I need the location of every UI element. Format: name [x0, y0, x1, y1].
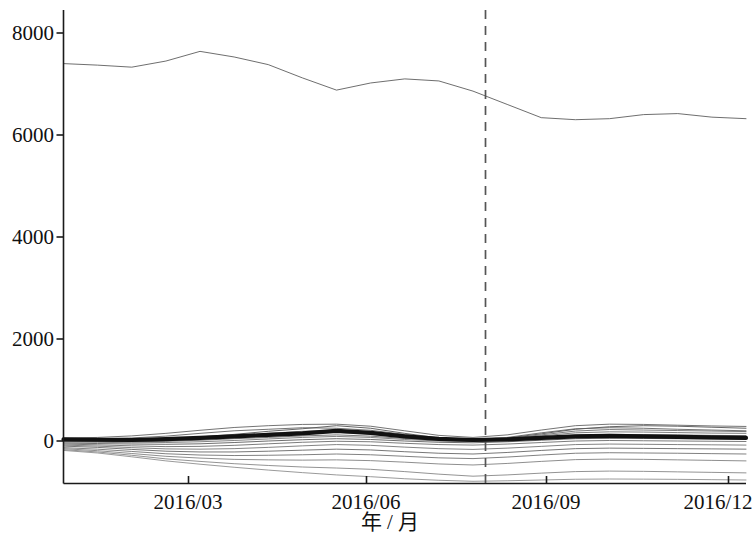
y-tick-label-8000: 8000 [0, 23, 54, 44]
series-layer [64, 51, 747, 481]
x-axis-ticks [189, 476, 729, 484]
plot-area [0, 0, 752, 534]
y-tick-label-6000: 6000 [0, 125, 54, 146]
x-axis-title: 年 / 月 [361, 511, 419, 533]
series-line-total-top-line [64, 51, 747, 119]
y-tick-label-4000: 4000 [0, 227, 54, 248]
y-tick-label-0: 0 [0, 431, 54, 452]
y-axis-ticks [57, 33, 64, 441]
x-tick-label-2016-09: 2016/09 [512, 492, 581, 513]
line-chart: 8000 6000 4000 2000 0 2016/03 2016/06 20… [0, 0, 752, 534]
series-line-series-13 [64, 450, 747, 481]
x-tick-label-2016-12: 2016/12 [684, 492, 752, 513]
axis-layer [57, 10, 747, 484]
x-tick-label-2016-03: 2016/03 [154, 492, 223, 513]
y-tick-label-2000: 2000 [0, 329, 54, 350]
